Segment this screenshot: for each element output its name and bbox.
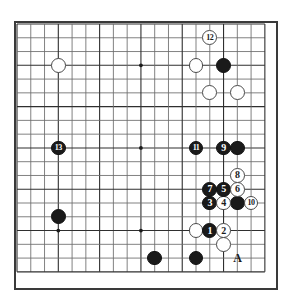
stone-black[interactable] bbox=[230, 141, 245, 156]
move-stone-2[interactable]: 2 bbox=[216, 223, 231, 238]
move-stone-7[interactable]: 7 bbox=[202, 182, 217, 197]
move-stone-1[interactable]: 1 bbox=[202, 223, 217, 238]
move-number-label: 3 bbox=[208, 198, 213, 208]
stone-white[interactable] bbox=[216, 237, 231, 252]
stone-black[interactable] bbox=[230, 196, 245, 211]
move-number-label: 4 bbox=[221, 198, 226, 208]
move-stone-5[interactable]: 5 bbox=[216, 182, 231, 197]
move-stone-13[interactable]: 13 bbox=[51, 141, 66, 156]
stone-white[interactable] bbox=[189, 223, 204, 238]
move-number-label: 12 bbox=[206, 34, 213, 42]
move-number-label: 5 bbox=[221, 184, 226, 194]
move-number-label: 6 bbox=[235, 184, 240, 194]
stone-white[interactable] bbox=[230, 85, 245, 100]
move-number-label: 8 bbox=[235, 170, 240, 180]
stone-white[interactable] bbox=[189, 58, 204, 73]
move-number-label: 1 bbox=[208, 226, 213, 236]
move-number-label: 9 bbox=[221, 143, 226, 153]
move-number-label: 11 bbox=[193, 144, 200, 152]
move-stone-6[interactable]: 6 bbox=[230, 182, 245, 197]
move-stone-9[interactable]: 9 bbox=[216, 141, 231, 156]
move-stone-4[interactable]: 4 bbox=[216, 196, 231, 211]
move-number-label: 10 bbox=[248, 199, 255, 207]
go-diagram-page: 12345678910111213A bbox=[0, 0, 292, 305]
stone-white[interactable] bbox=[51, 58, 66, 73]
move-number-label: 13 bbox=[55, 144, 62, 152]
move-number-label: 2 bbox=[221, 226, 226, 236]
move-number-label: 7 bbox=[208, 184, 213, 194]
stone-black[interactable] bbox=[216, 58, 231, 73]
stone-black[interactable] bbox=[51, 209, 66, 224]
board-point-label-a: A bbox=[233, 252, 242, 264]
move-stone-8[interactable]: 8 bbox=[230, 168, 245, 183]
